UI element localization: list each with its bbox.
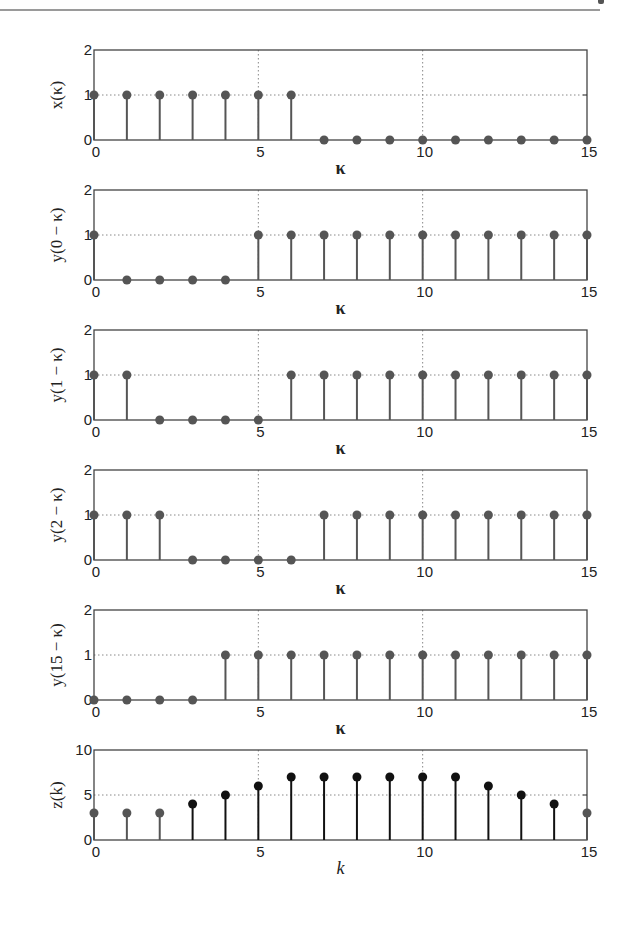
stem-marker (352, 773, 361, 782)
stem-marker (122, 696, 131, 705)
y-tick-label: 10 (75, 741, 92, 758)
stem-marker (188, 91, 197, 100)
stem-marker (221, 556, 230, 565)
stem-marker (188, 556, 197, 565)
x-tick-label: 0 (92, 703, 100, 720)
stem-marker (418, 773, 427, 782)
stem-marker (583, 511, 592, 520)
stem-marker (352, 371, 361, 380)
stem-marker (90, 696, 99, 705)
stem-marker (385, 371, 394, 380)
x-tick-label: 10 (416, 143, 433, 160)
axes-box (94, 750, 587, 840)
stem-marker (90, 231, 99, 240)
x-tick-label: 15 (581, 563, 598, 580)
stem-marker (155, 511, 164, 520)
stem-marker (287, 91, 296, 100)
stem-marker (583, 651, 592, 660)
stem-marker (122, 371, 131, 380)
stem-marker (122, 511, 131, 520)
stem-marker (550, 371, 559, 380)
grid-lines (94, 750, 587, 840)
y-axis-label: y(1 − κ) (47, 348, 66, 403)
stem-marker (287, 231, 296, 240)
stem-marker (550, 800, 559, 809)
stem-panel-3: 012051015κy(1 − κ) (47, 321, 597, 458)
stem-marker (451, 773, 460, 782)
stem-marker (418, 371, 427, 380)
stem-marker (385, 136, 394, 145)
stem-marker (254, 651, 263, 660)
y-tick-label: 2 (84, 321, 92, 338)
x-tick-label: 0 (92, 143, 100, 160)
x-axis-label: κ (336, 438, 346, 458)
y-axis-label: x(κ) (47, 81, 66, 109)
stem-marker (320, 136, 329, 145)
x-axis-label: κ (336, 718, 346, 738)
y-tick-label: 1 (84, 646, 92, 663)
y-tick-label: 2 (84, 41, 92, 58)
stem-marker (188, 416, 197, 425)
stem-panel-6: 0510051015kz(k) (47, 741, 597, 878)
x-tick-label: 15 (581, 703, 598, 720)
x-tick-label: 5 (256, 143, 264, 160)
stem-marker (352, 231, 361, 240)
stem-marker (517, 791, 526, 800)
y-tick-label: 0 (84, 831, 92, 848)
stem-marker (583, 231, 592, 240)
grid-lines (94, 50, 587, 140)
stem-marker (385, 773, 394, 782)
stem-marker (287, 371, 296, 380)
stem-marker (451, 511, 460, 520)
stem-marker (484, 651, 493, 660)
x-axis-label: k (337, 858, 346, 878)
stem-marker (320, 511, 329, 520)
stem-marker (254, 556, 263, 565)
y-tick-label: 2 (84, 181, 92, 198)
stem-marker (90, 511, 99, 520)
x-tick-label: 0 (92, 563, 100, 580)
x-tick-label: 5 (256, 563, 264, 580)
x-tick-label: 15 (581, 423, 598, 440)
x-axis-label: κ (336, 298, 346, 318)
stem-marker (583, 809, 592, 818)
stem-marker (484, 136, 493, 145)
stem-marker (517, 371, 526, 380)
y-tick-label: 5 (84, 786, 92, 803)
x-tick-label: 10 (416, 563, 433, 580)
stem-marker (451, 371, 460, 380)
x-tick-label: 0 (92, 423, 100, 440)
y-tick-label: 0 (84, 271, 92, 288)
stem-panel-4: 012051015κy(2 − κ) (47, 461, 597, 598)
stem-marker (352, 136, 361, 145)
y-axis-label: y(0 − κ) (47, 208, 66, 263)
y-tick-label: 0 (84, 551, 92, 568)
axes-box (94, 50, 587, 140)
stem-marker (188, 696, 197, 705)
stem-marker (385, 651, 394, 660)
stem-series (90, 511, 592, 565)
stem-marker (451, 651, 460, 660)
stem-marker (451, 231, 460, 240)
y-axis-label: z(k) (47, 781, 66, 808)
stem-marker (418, 511, 427, 520)
stem-marker (418, 231, 427, 240)
x-axis-label: κ (336, 158, 346, 178)
stem-series (90, 91, 592, 145)
stem-marker (221, 651, 230, 660)
stem-marker (287, 556, 296, 565)
stem-marker (188, 800, 197, 809)
stem-marker (254, 416, 263, 425)
axes-box (94, 190, 587, 280)
y-tick-label: 2 (84, 461, 92, 478)
y-axis-label: y(2 − κ) (47, 488, 66, 543)
y-tick-label: 2 (84, 601, 92, 618)
stem-marker (221, 91, 230, 100)
stem-marker (320, 773, 329, 782)
stem-marker (155, 696, 164, 705)
stem-marker (221, 416, 230, 425)
stem-marker (90, 809, 99, 818)
x-tick-label: 5 (256, 283, 264, 300)
stem-marker (517, 511, 526, 520)
x-tick-label: 0 (92, 283, 100, 300)
